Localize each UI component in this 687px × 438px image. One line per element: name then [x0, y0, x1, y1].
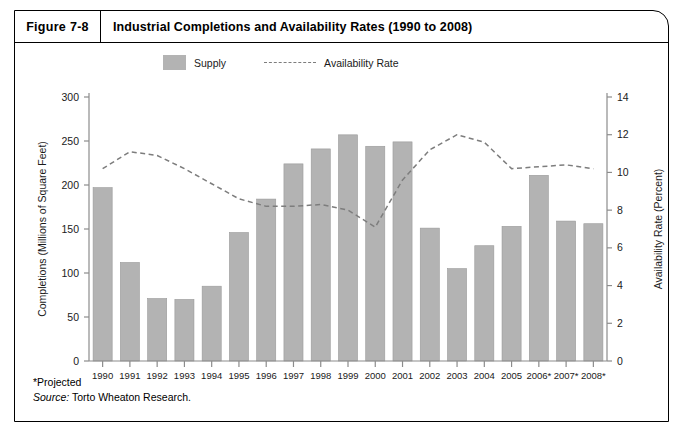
x-axis-tick-label: 1997 — [283, 370, 304, 381]
bar-1999 — [338, 135, 357, 361]
x-axis-tick-label: 2000 — [365, 370, 386, 381]
y-axis-left-tick-label: 200 — [61, 179, 79, 191]
y-axis-left-tick-label: 150 — [61, 223, 79, 235]
source-label: Source: — [33, 391, 69, 403]
y-axis-left-tick-label: 100 — [61, 267, 79, 279]
x-axis-tick-label: 2007* — [554, 370, 579, 381]
bar-1998 — [311, 149, 330, 361]
y-axis-left-tick-label: 250 — [61, 135, 79, 147]
x-axis-tick-label: 2003 — [446, 370, 467, 381]
bar-1993 — [175, 299, 194, 361]
y-axis-right-tick-label: 4 — [617, 279, 623, 291]
y-axis-right-tick-label: 14 — [617, 91, 629, 103]
x-axis-tick-label: 1999 — [337, 370, 358, 381]
bar-1990 — [93, 188, 112, 361]
y-axis-right-tick-label: 8 — [617, 204, 623, 216]
x-axis-tick-label: 2002 — [419, 370, 440, 381]
bar-1996 — [257, 199, 276, 361]
bar-1992 — [148, 299, 167, 361]
bar-2008* — [584, 224, 603, 361]
y-axis-left-tick-label: 50 — [67, 311, 79, 323]
x-axis-tick-label: 1998 — [310, 370, 331, 381]
x-axis-tick-label: 2001 — [392, 370, 413, 381]
bar-2002 — [420, 228, 439, 361]
x-axis-tick-label: 1995 — [228, 370, 249, 381]
bar-2004 — [475, 246, 494, 361]
y-axis-right-tick-label: 6 — [617, 241, 623, 253]
y-axis-right-tick-label: 10 — [617, 166, 629, 178]
bar-1991 — [120, 262, 139, 361]
y-axis-left-tick-label: 0 — [73, 355, 79, 367]
bar-2003 — [448, 269, 467, 361]
y-axis-right-tick-label: 12 — [617, 128, 629, 140]
bar-2007* — [557, 221, 576, 361]
x-axis-tick-label: 2004 — [474, 370, 495, 381]
figure-frame: Figure 7-8 Industrial Completions and Av… — [14, 10, 669, 422]
bar-1995 — [229, 233, 248, 361]
bar-1997 — [284, 164, 303, 361]
bar-2000 — [366, 146, 385, 361]
source-text: Torto Wheaton Research. — [69, 391, 191, 403]
bar-2006* — [529, 175, 548, 361]
figure-footer: *Projected Source: Torto Wheaton Researc… — [33, 375, 191, 405]
y-axis-right-tick-label: 0 — [617, 355, 623, 367]
x-axis-tick-label: 2006* — [526, 370, 551, 381]
y-axis-right-title: Availability Rate (Percent) — [652, 114, 664, 344]
footnote-projected: *Projected — [33, 375, 191, 390]
bar-2001 — [393, 142, 412, 361]
y-axis-right-tick-label: 2 — [617, 317, 623, 329]
chart-svg: 0501001502002503000246810121419901991199… — [15, 11, 670, 423]
y-axis-left-tick-label: 300 — [61, 91, 79, 103]
bar-1994 — [202, 286, 221, 361]
x-axis-tick-label: 1996 — [256, 370, 277, 381]
y-axis-left-title: Completions (Millions of Square Feet) — [36, 114, 48, 344]
x-axis-tick-label: 1994 — [201, 370, 222, 381]
bar-2005 — [502, 226, 521, 361]
x-axis-tick-label: 2005 — [501, 370, 522, 381]
chart-plot-area: 0501001502002503000246810121419901991199… — [15, 11, 670, 423]
source-line: Source: Torto Wheaton Research. — [33, 390, 191, 405]
x-axis-tick-label: 2008* — [581, 370, 606, 381]
